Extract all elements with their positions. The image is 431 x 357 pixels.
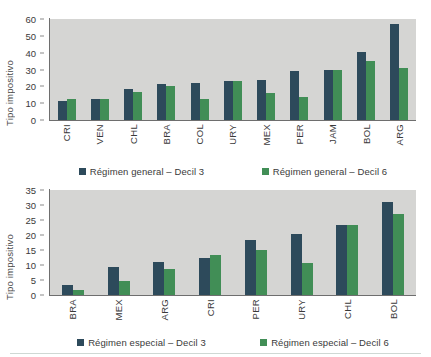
- legend-item-series2[interactable]: Régimen especial – Decil 6: [260, 337, 389, 348]
- bar-group: [124, 19, 142, 120]
- x-tick-label-cri: CRI: [61, 124, 72, 141]
- bar-cri-series1: [58, 101, 67, 120]
- bar-arg-series2: [399, 68, 408, 120]
- y-tick-mark: [40, 235, 44, 236]
- x-label-cell: PER: [290, 124, 308, 158]
- x-label-cell: URY: [224, 124, 242, 158]
- y-tick-mark: [40, 250, 44, 251]
- y-tick-mark: [40, 280, 44, 281]
- bottom-rule: [10, 353, 421, 354]
- legend-top: Régimen general – Decil 3Régimen general…: [50, 164, 416, 178]
- x-label-cell: VEN: [91, 124, 109, 158]
- bar-bra-series1: [62, 285, 73, 295]
- y-tick-mark: [40, 19, 44, 20]
- x-tick-label-chl: CHL: [342, 299, 353, 319]
- x-tick-label-jam: JAM: [327, 124, 338, 144]
- y-axis-label-bottom: Tipo impositivo: [4, 200, 15, 300]
- bar-per-series1: [245, 240, 256, 295]
- bar-per-series2: [256, 250, 267, 295]
- y-tick-label: 50: [25, 30, 36, 41]
- bar-group: [224, 19, 242, 120]
- x-tick-label-cri: CRI: [205, 299, 216, 316]
- legend-label: Régimen especial – Decil 6: [271, 337, 389, 348]
- y-tick-mark: [40, 295, 44, 296]
- y-tick-mark: [40, 190, 44, 191]
- x-axis-line-top: [49, 120, 416, 121]
- bar-group: [191, 19, 209, 120]
- x-label-cell: CRI: [201, 299, 219, 333]
- bar-col-series2: [200, 99, 209, 120]
- bar-per-series1: [290, 71, 299, 120]
- y-tick-label: 40: [25, 47, 36, 58]
- bar-arg-series1: [153, 262, 164, 295]
- bar-mex-series2: [266, 93, 275, 120]
- x-tick-label-per: PER: [294, 124, 305, 144]
- x-tick-label-arg: ARG: [159, 299, 170, 321]
- bar-groups-bottom: [50, 190, 416, 295]
- bar-group: [336, 190, 358, 295]
- bar-group: [291, 190, 313, 295]
- y-tick-label: 25: [25, 215, 36, 226]
- bar-cri-series2: [67, 99, 76, 120]
- y-tick-label: 0: [31, 115, 36, 126]
- x-label-cell: CRI: [58, 124, 76, 158]
- bar-per-series2: [299, 97, 308, 120]
- bar-group: [199, 190, 221, 295]
- x-label-cell: BRA: [157, 124, 175, 158]
- y-tick-mark: [40, 120, 44, 121]
- bar-jam-series1: [324, 70, 333, 120]
- x-axis-labels-bottom: BRAMEXARGCRIPERURYCHLBOL: [50, 299, 416, 333]
- y-tick-label: 10: [25, 260, 36, 271]
- chart-panel-regimen-general: Tipo impositivo 0102030405060 CRIVENCHLB…: [0, 0, 431, 180]
- plot-area-bottom: [50, 190, 416, 295]
- legend-item-series2[interactable]: Régimen general – Decil 6: [262, 166, 387, 177]
- plot-area-top: [50, 19, 416, 120]
- x-tick-label-bra: BRA: [161, 124, 172, 144]
- bar-group: [290, 19, 308, 120]
- x-tick-label-bol: BOL: [388, 299, 399, 319]
- legend-label: Régimen general – Decil 6: [273, 166, 387, 177]
- y-tick-label: 35: [25, 185, 36, 196]
- x-label-cell: URY: [293, 299, 311, 333]
- legend-item-series1[interactable]: Régimen general – Decil 3: [79, 166, 204, 177]
- bar-group: [324, 19, 342, 120]
- bar-bol-series2: [366, 61, 375, 120]
- x-label-cell: PER: [247, 299, 265, 333]
- x-tick-label-mex: MEX: [113, 299, 124, 321]
- bar-group: [357, 19, 375, 120]
- y-tick-label: 30: [25, 200, 36, 211]
- bar-chl-series1: [124, 89, 133, 120]
- bar-group: [382, 190, 404, 295]
- x-label-cell: BOL: [384, 299, 402, 333]
- y-tick-mark: [40, 35, 44, 36]
- x-tick-label-mex: MEX: [261, 124, 272, 146]
- y-axis-ticks-top: 0102030405060: [24, 19, 44, 120]
- x-tick-label-per: PER: [250, 299, 261, 319]
- bar-ury-series2: [233, 81, 242, 120]
- x-tick-label-col: COL: [194, 124, 205, 144]
- bar-jam-series2: [333, 70, 342, 120]
- legend-swatch-icon: [262, 168, 269, 175]
- y-tick-label: 15: [25, 245, 36, 256]
- bar-ury-series2: [302, 263, 313, 295]
- bar-bol-series1: [357, 52, 366, 120]
- legend-item-series1[interactable]: Régimen especial – Decil 3: [77, 337, 206, 348]
- legend-swatch-icon: [79, 168, 86, 175]
- x-label-cell: COL: [191, 124, 209, 158]
- bar-chl-series2: [133, 92, 142, 120]
- bar-bra-series2: [166, 86, 175, 120]
- bar-bol-series2: [393, 214, 404, 295]
- x-axis-labels-top: CRIVENCHLBRACOLURYMEXPERJAMBOLARG: [50, 124, 416, 158]
- bar-group: [153, 190, 175, 295]
- bar-group: [91, 19, 109, 120]
- bar-arg-series2: [164, 269, 175, 295]
- x-label-cell: JAM: [324, 124, 342, 158]
- legend-swatch-icon: [77, 339, 84, 346]
- y-tick-label: 30: [25, 64, 36, 75]
- x-tick-label-bra: BRA: [67, 299, 78, 319]
- legend-label: Régimen especial – Decil 3: [88, 337, 206, 348]
- bar-ury-series1: [291, 234, 302, 295]
- chart-panel-regimen-especial: Tipo impositivo 05101520253035 BRAMEXARG…: [0, 180, 431, 357]
- figure-container: Tipo impositivo 0102030405060 CRIVENCHLB…: [0, 0, 431, 357]
- bar-groups-top: [50, 19, 416, 120]
